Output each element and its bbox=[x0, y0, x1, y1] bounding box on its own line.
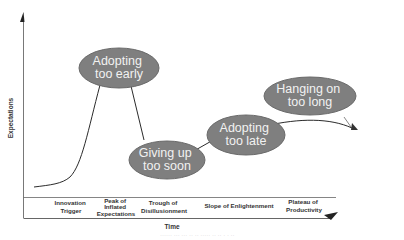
svg-text:Giving up too soon: Giving up too soon bbox=[139, 146, 195, 173]
phase-peak-of-inflated-expectations: Peak of Inflated Expectations bbox=[97, 197, 136, 217]
phase-trough-of-disillusionment: Trough of Disillusionment bbox=[141, 199, 187, 214]
plateau-arrow-icon bbox=[351, 123, 358, 130]
y-axis-label: Expectations bbox=[7, 97, 15, 138]
hype-cycle-diagram: Expectations Innovation Trigger Peak of … bbox=[0, 0, 404, 240]
faint-caption: ······ ··· ··· ·· ·· ····· ·· ·· · · ·· bbox=[160, 232, 235, 238]
phase-plateau-of-productivity: Plateau of Productivity bbox=[286, 198, 322, 213]
svg-text:Adopting too late: Adopting too late bbox=[220, 121, 273, 148]
svg-text:Adopting too early: Adopting too early bbox=[93, 54, 146, 81]
callout-adopting-too-early: Adopting too early bbox=[79, 48, 159, 88]
callout-giving-up-too-soon: Giving up too soon bbox=[129, 141, 205, 179]
phase-innovation-trigger: Innovation Trigger bbox=[54, 199, 87, 214]
y-axis: Expectations bbox=[7, 12, 25, 218]
y-axis-arrow-icon bbox=[20, 12, 25, 22]
phase-band: Innovation Trigger Peak of Inflated Expe… bbox=[24, 197, 339, 220]
x-axis-label: Time bbox=[164, 223, 179, 230]
phase-slope-of-enlightenment: Slope of Enlightenment bbox=[204, 202, 273, 209]
callout-adopting-too-late: Adopting too late bbox=[207, 115, 285, 155]
callout-hanging-on-too-long: Hanging on too long bbox=[264, 77, 356, 115]
